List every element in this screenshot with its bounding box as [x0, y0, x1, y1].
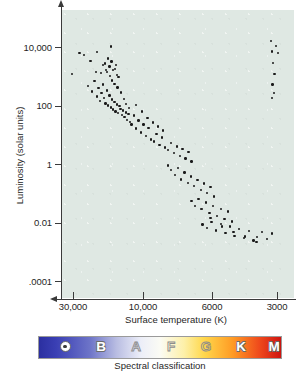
data-point: [108, 94, 110, 96]
data-point: [275, 45, 277, 47]
data-point: [117, 112, 119, 114]
data-point: [153, 140, 155, 142]
data-point: [183, 171, 185, 173]
data-point: [162, 129, 164, 131]
data-point: [212, 205, 214, 207]
data-point: [190, 175, 192, 177]
data-point: [229, 225, 231, 227]
y-tick-mark: [55, 47, 62, 48]
x-tick-mark: [143, 292, 144, 299]
data-point: [271, 232, 273, 234]
data-point: [209, 186, 211, 188]
data-point: [206, 192, 208, 194]
data-point: [110, 60, 112, 62]
data-point: [180, 178, 182, 180]
data-point: [200, 189, 202, 191]
data-point: [170, 142, 172, 144]
data-point: [152, 121, 154, 123]
data-point: [201, 223, 203, 225]
spectral-class-g: G: [193, 339, 219, 355]
spectral-class-b: B: [88, 339, 114, 355]
data-point: [238, 228, 240, 230]
data-point: [102, 83, 104, 85]
data-point: [93, 80, 95, 82]
data-point: [209, 217, 211, 219]
data-point: [106, 71, 108, 73]
data-point: [115, 64, 117, 66]
data-point: [227, 210, 229, 212]
data-point: [155, 133, 157, 135]
data-point: [83, 54, 85, 56]
data-point: [161, 136, 163, 138]
plot-area: [62, 10, 294, 298]
data-point: [221, 225, 223, 227]
data-point: [120, 91, 122, 93]
data-point: [215, 229, 217, 231]
data-point: [193, 185, 195, 187]
data-point: [197, 198, 199, 200]
spectral-class-a: A: [123, 339, 149, 355]
x-tick-mark: [212, 292, 213, 299]
data-point: [261, 231, 263, 233]
data-point: [208, 212, 210, 214]
data-point: [135, 127, 137, 129]
data-point: [231, 220, 233, 222]
data-point: [122, 109, 124, 111]
data-point: [271, 97, 273, 99]
x-tick-label: 10,000: [113, 302, 173, 312]
data-point: [206, 227, 208, 229]
spectral-caption: Spectral classification: [38, 360, 282, 371]
data-point: [117, 76, 119, 78]
data-point: [91, 90, 93, 92]
x-tick-mark: [73, 292, 74, 299]
spectral-class-k: K: [228, 339, 254, 355]
data-point: [232, 231, 234, 233]
y-axis-title: Luminosity (solar units): [14, 81, 25, 231]
data-point: [223, 218, 225, 220]
data-point: [140, 131, 142, 133]
data-point: [244, 235, 246, 237]
data-point: [150, 138, 152, 140]
y-tick-mark: [55, 164, 62, 165]
data-point: [137, 119, 139, 121]
data-point: [187, 182, 189, 184]
data-point: [256, 236, 258, 238]
data-point: [233, 235, 235, 237]
data-point: [89, 60, 91, 62]
data-point: [103, 97, 105, 99]
data-point: [96, 95, 98, 97]
data-point: [96, 51, 98, 53]
data-point: [110, 45, 112, 47]
data-point: [128, 107, 130, 109]
x-tick-label: 6000: [182, 302, 242, 312]
data-point: [111, 79, 113, 81]
data-point: [190, 160, 192, 162]
data-point: [277, 52, 279, 54]
data-point: [97, 87, 99, 89]
data-point: [133, 114, 135, 116]
data-point: [104, 62, 106, 64]
data-point: [216, 215, 218, 217]
data-point: [147, 127, 149, 129]
data-point: [210, 221, 212, 223]
data-point: [164, 146, 166, 148]
data-point: [127, 113, 129, 115]
data-point: [173, 152, 175, 154]
data-point: [106, 89, 108, 91]
data-point: [108, 65, 110, 67]
data-point: [181, 148, 183, 150]
y-axis-line: [61, 6, 62, 300]
y-tick-label: 0.01: [0, 218, 52, 228]
y-tick-label: 1: [0, 160, 52, 170]
data-point: [167, 164, 169, 166]
data-point: [135, 104, 137, 106]
data-point: [170, 169, 172, 171]
data-point: [109, 75, 111, 77]
data-point: [157, 125, 159, 127]
x-tick-mark: [277, 292, 278, 299]
data-point: [126, 119, 128, 121]
y-tick-label: .0001: [0, 277, 52, 287]
data-point: [114, 68, 116, 70]
data-point: [271, 83, 273, 85]
data-point: [100, 92, 102, 94]
